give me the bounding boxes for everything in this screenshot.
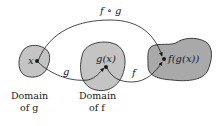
label-f: f	[131, 67, 138, 78]
caption-domain-f-line1: Domain	[79, 90, 116, 101]
caption-domain-f-line2: of f	[89, 102, 106, 113]
label-gx: g(x)	[96, 53, 116, 64]
caption-domain-g-line1: Domain	[11, 90, 48, 101]
label-g: g	[63, 66, 69, 77]
point-fgx	[162, 57, 166, 61]
label-fgx: f(g(x))	[167, 53, 199, 64]
label-composition: f ∘ g	[99, 5, 121, 16]
point-gx	[104, 65, 108, 69]
domain-f-region	[81, 42, 126, 91]
caption-domain-g-line2: of g	[20, 102, 38, 113]
composition-diagram: f ∘ g x g g(x) f f(g(x)) Domain of g Dom…	[0, 0, 221, 126]
domain-g-region	[19, 45, 50, 77]
point-x	[35, 59, 39, 63]
label-x: x	[28, 55, 34, 66]
